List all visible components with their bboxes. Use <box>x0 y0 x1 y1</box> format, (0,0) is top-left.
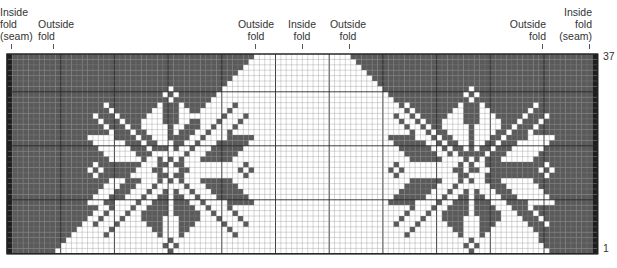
row-number-bottom: 1 <box>603 242 609 254</box>
label-outside-fold-left: Outside fold <box>38 18 74 42</box>
label-outside-fold-center-left: Outside fold <box>234 18 278 42</box>
label-inside-fold-seam-right: Inside fold (seam) <box>554 6 592 42</box>
knitting-chart-grid <box>6 53 599 255</box>
fold-tick-outside-fold-left <box>53 44 54 49</box>
label-outside-fold-center-right: Outside fold <box>326 18 370 42</box>
label-outside-fold-right: Outside fold <box>500 18 546 42</box>
label-inside-fold-seam-left: Inside fold (seam) <box>0 6 33 42</box>
fold-tick-outside-fold-center-right <box>349 44 350 49</box>
fold-tick-inside-fold-seam-right <box>589 44 590 49</box>
label-inside-fold-center: Inside fold <box>282 18 322 42</box>
fold-tick-outside-fold-center-left <box>255 44 256 49</box>
row-number-top: 37 <box>603 50 615 62</box>
fold-tick-outside-fold-right <box>542 44 543 49</box>
fold-tick-inside-fold-seam-left <box>11 44 12 49</box>
fold-tick-inside-fold-center <box>302 44 303 49</box>
